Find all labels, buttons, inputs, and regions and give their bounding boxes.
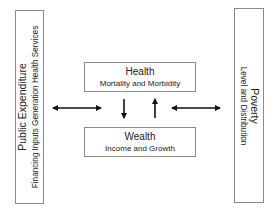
arrows-layer [0, 0, 278, 216]
